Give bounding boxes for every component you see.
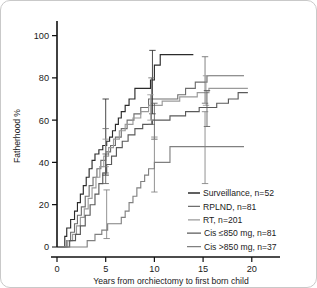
legend-item-3: Cis ≤850 mg, n=81	[187, 228, 277, 238]
legend-item-2: RT, n=201	[188, 215, 242, 225]
y-tick-label: 0	[44, 242, 49, 252]
errorbars-layer	[102, 50, 210, 238]
y-tick-label: 60	[39, 116, 49, 126]
line-chart: 02040608010005101520 Surveillance, n=52R…	[1, 1, 317, 288]
chart-legend: Surveillance, n=52RPLND, n=81RT, n=201Ci…	[187, 188, 277, 252]
legend-label-2: RT, n=201	[203, 215, 242, 225]
legend-item-1: RPLND, n=81	[188, 202, 256, 212]
legend-item-0: Surveillance, n=52	[188, 188, 274, 198]
figure-panel: 02040608010005101520 Surveillance, n=52R…	[0, 0, 317, 288]
legend-label-4: Cis >850 mg, n=37	[204, 242, 277, 252]
y-tick-label: 80	[39, 73, 49, 83]
y-axis-title: Fatherhood %	[12, 109, 22, 163]
y-tick-label: 40	[39, 158, 49, 168]
error-bar	[151, 137, 157, 192]
error-bar	[148, 78, 154, 125]
legend-label-0: Surveillance, n=52	[203, 188, 274, 198]
x-tick-label: 10	[149, 264, 159, 274]
y-tick-label: 20	[39, 200, 49, 210]
legend-item-4: Cis >850 mg, n=37	[187, 242, 277, 252]
legend-label-1: RPLND, n=81	[203, 202, 256, 212]
error-bar	[103, 190, 109, 239]
x-tick-label: 5	[103, 264, 108, 274]
x-tick-label: 15	[198, 264, 208, 274]
x-axis-title: Years from orchiectomy to first born chi…	[93, 276, 249, 286]
legend-label-3: Cis ≤850 mg, n=81	[204, 228, 277, 238]
y-tick-label: 100	[34, 31, 49, 41]
x-tick-label: 0	[54, 264, 59, 274]
x-tick-label: 20	[247, 264, 257, 274]
